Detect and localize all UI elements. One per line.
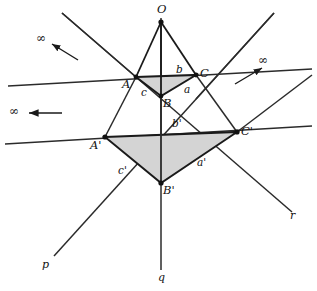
perspective-triangles-diagram: O A B C A' B' C' b a c b' a' c' p q r ∞ … <box>0 0 317 291</box>
label-side-a: a <box>184 84 190 95</box>
label-point-b-prime: B' <box>163 185 175 197</box>
line-r-upper-segment <box>62 13 136 77</box>
vertex-dot-o <box>158 19 163 24</box>
label-point-a: A <box>122 79 130 91</box>
label-ray-q: q <box>158 272 165 283</box>
arrow-to-infinity-top-left <box>52 44 78 60</box>
edge-o-to-a <box>136 22 161 77</box>
diagram-canvas <box>0 0 317 291</box>
label-point-c: C <box>200 68 209 80</box>
label-side-c-prime: c' <box>118 165 127 176</box>
vertex-dot-c <box>194 73 199 78</box>
vertex-dot-a <box>134 75 139 80</box>
label-point-b: B <box>163 98 171 110</box>
label-infinity-top-left: ∞ <box>36 32 46 44</box>
label-side-a-prime: a' <box>197 157 206 168</box>
label-point-o: O <box>157 4 166 16</box>
vertex-dot-a-prime <box>102 134 107 139</box>
label-ray-p: p <box>42 259 49 270</box>
label-point-c-prime: C' <box>241 126 253 138</box>
arrow-to-infinity-top-right <box>235 68 262 84</box>
label-side-b: b <box>176 64 183 75</box>
segment-c-to-c-prime <box>196 75 237 132</box>
vertex-dot-c-prime <box>234 129 239 134</box>
label-ray-r: r <box>290 210 295 221</box>
label-infinity-left: ∞ <box>9 105 19 117</box>
label-side-c: c <box>141 87 147 98</box>
label-side-b-prime: b' <box>172 118 182 129</box>
segment-a-to-a-prime <box>105 77 136 137</box>
label-point-a-prime: A' <box>90 140 101 152</box>
label-infinity-top-right: ∞ <box>258 54 268 66</box>
